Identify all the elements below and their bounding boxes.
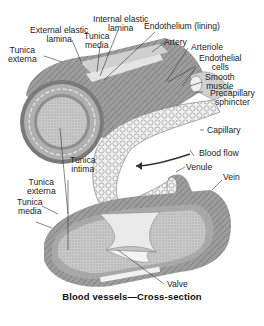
label-line: cells (199, 63, 242, 72)
label-internal-elastic-lamina: Internal elastic lamina (93, 15, 148, 33)
label-vein: Vein (223, 173, 240, 182)
label-endothelial-cells: Endothelial cells (199, 54, 242, 72)
label-tunica-intima: Tunica intima (70, 156, 95, 174)
label-blood-flow: Blood flow (199, 149, 239, 158)
label-endothelium: Endothelium (lining) (144, 22, 220, 31)
label-capillary: Capillary (207, 126, 240, 135)
label-tunica-media-bottom: Tunica media (17, 198, 42, 216)
blood-vessel-illustration (0, 0, 264, 326)
label-precapillary-sphincter: Precapillary sphincter (210, 89, 255, 107)
blood-flow-arrowhead (136, 162, 142, 170)
label-line: media (84, 41, 109, 50)
label-tunica-media-top: Tunica media (84, 32, 109, 50)
label-line: externa (8, 55, 37, 64)
vein (44, 190, 231, 287)
blood-flow-arrow (136, 154, 190, 166)
label-line: sphincter (210, 98, 255, 107)
label-line: lamina (93, 24, 148, 33)
label-line: media (17, 207, 42, 216)
label-tunica-externa-bottom: Tunica externa (27, 178, 56, 196)
label-external-elastic-lamina: External elastic lamina (30, 26, 88, 44)
label-valve: Valve (167, 280, 188, 289)
label-artery: Artery (164, 38, 187, 47)
label-line: intima (70, 165, 95, 174)
label-tunica-externa-top: Tunica externa (8, 46, 37, 64)
label-line: externa (27, 187, 56, 196)
label-venule: Venule (186, 163, 212, 172)
label-arteriole: Arteriole (191, 43, 223, 52)
figure-caption: Blood vessels—Cross-section (0, 291, 264, 302)
label-line: lamina (30, 35, 88, 44)
